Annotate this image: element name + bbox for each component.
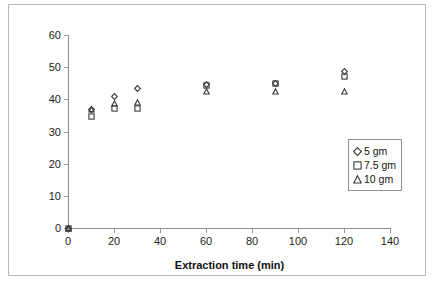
y-tick-label: 50: [49, 61, 61, 73]
square-icon: [353, 161, 362, 170]
x-tick-label: 140: [381, 235, 399, 247]
x-tick-label: 100: [289, 235, 307, 247]
plot-area: 0102030405060 020406080100120140: [68, 35, 390, 228]
y-tick-mark: [64, 196, 68, 197]
data-point-triangle: [341, 88, 348, 95]
x-tick-mark: [206, 229, 207, 233]
x-tick-mark: [390, 229, 391, 233]
data-point-square: [88, 113, 95, 120]
y-tick-label: 0: [55, 222, 61, 234]
data-point-triangle: [203, 88, 210, 95]
data-point-triangle: [111, 100, 118, 107]
x-axis-line: [68, 228, 391, 229]
diamond-icon: [353, 147, 362, 156]
y-tick-label: 20: [49, 158, 61, 170]
y-tick-mark: [64, 99, 68, 100]
x-tick-label: 0: [65, 235, 71, 247]
legend-item-label: 5 gm: [364, 145, 387, 157]
y-tick-label: 10: [49, 190, 61, 202]
chart-legend: 5 gm7.5 gm10 gm: [348, 139, 402, 191]
data-point-square: [272, 80, 279, 87]
legend-item: 5 gm: [353, 144, 396, 158]
y-tick-mark: [64, 132, 68, 133]
y-tick-label: 40: [49, 93, 61, 105]
x-tick-mark: [114, 229, 115, 233]
legend-item-label: 7.5 gm: [364, 159, 396, 171]
x-tick-label: 20: [108, 235, 120, 247]
data-point-triangle: [65, 225, 72, 232]
x-tick-label: 120: [335, 235, 353, 247]
data-point-triangle: [134, 99, 141, 106]
chart-figure: 0102030405060 020406080100120140 Extract…: [0, 0, 436, 290]
x-tick-label: 60: [200, 235, 212, 247]
x-tick-label: 80: [246, 235, 258, 247]
x-tick-mark: [344, 229, 345, 233]
x-tick-mark: [252, 229, 253, 233]
data-point-triangle: [272, 88, 279, 95]
legend-item: 10 gm: [353, 172, 396, 186]
y-tick-mark: [64, 164, 68, 165]
x-tick-mark: [160, 229, 161, 233]
data-point-diamond: [134, 85, 141, 92]
y-tick-label: 60: [49, 29, 61, 41]
data-point-square: [341, 73, 348, 80]
y-tick-mark: [64, 67, 68, 68]
y-tick-mark: [64, 35, 68, 36]
x-axis-title: Extraction time (min): [68, 259, 391, 271]
data-point-triangle: [88, 106, 95, 113]
triangle-icon: [353, 175, 362, 184]
legend-item: 7.5 gm: [353, 158, 396, 172]
y-tick-label: 30: [49, 126, 61, 138]
x-tick-mark: [298, 229, 299, 233]
x-tick-label: 40: [154, 235, 166, 247]
legend-item-label: 10 gm: [364, 173, 393, 185]
